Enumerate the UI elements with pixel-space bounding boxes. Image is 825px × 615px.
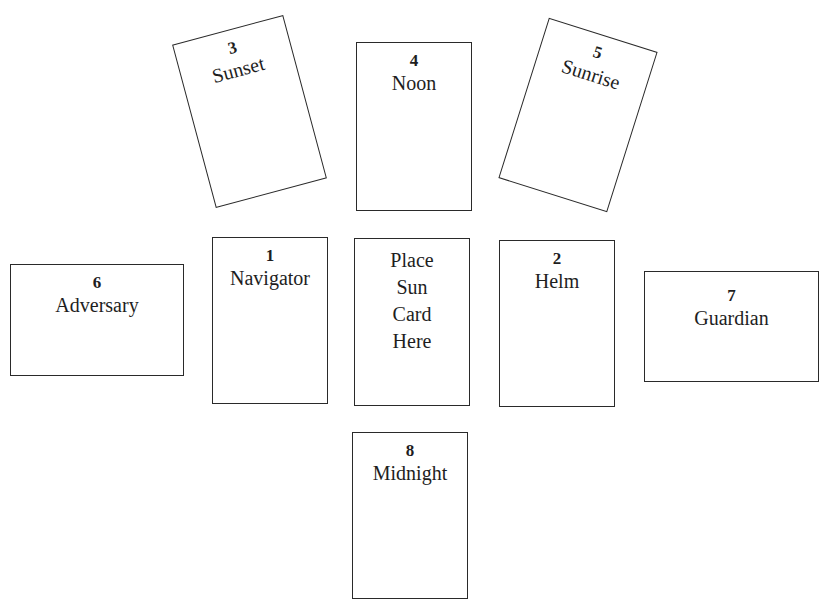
card-number: 4 (357, 51, 471, 71)
card-number: 8 (353, 441, 467, 461)
instruction-line: Card (355, 301, 469, 328)
card-label: Midnight (353, 461, 467, 485)
sun-card-slot: Place Sun Card Here (354, 238, 470, 406)
card-number: 6 (11, 273, 183, 293)
card-label: Noon (357, 71, 471, 95)
sun-card-instruction: Place Sun Card Here (355, 247, 469, 355)
instruction-line: Here (355, 328, 469, 355)
instruction-line: Place (355, 247, 469, 274)
card-label: Adversary (11, 293, 183, 317)
card-label: Navigator (213, 266, 327, 290)
card-2-helm: 2 Helm (499, 240, 615, 407)
instruction-line: Sun (355, 274, 469, 301)
card-4-noon: 4 Noon (356, 42, 472, 211)
card-5-sunrise: 5 Sunrise (498, 18, 657, 213)
card-number: 2 (500, 249, 614, 269)
card-number: 7 (645, 286, 818, 306)
card-7-guardian: 7 Guardian (644, 271, 819, 382)
card-6-adversary: 6 Adversary (10, 264, 184, 376)
card-number: 1 (213, 246, 327, 266)
card-label: Helm (500, 269, 614, 293)
card-8-midnight: 8 Midnight (352, 432, 468, 599)
card-3-sunset: 3 Sunset (172, 15, 327, 208)
card-label: Guardian (645, 306, 818, 330)
card-1-navigator: 1 Navigator (212, 237, 328, 404)
